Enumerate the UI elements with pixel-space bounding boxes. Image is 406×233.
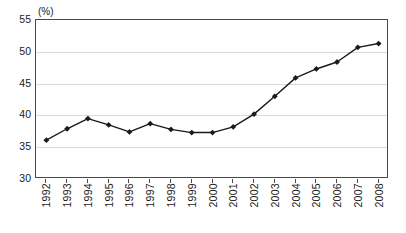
x-axis-tick-label: 2007 bbox=[352, 183, 364, 208]
data-point-marker: 1996: 37.4 bbox=[127, 129, 133, 135]
y-axis-tick-label: 50 bbox=[11, 46, 31, 56]
x-axis-tick-label: 2001 bbox=[227, 183, 239, 208]
x-axis-tick-label: 1996 bbox=[123, 183, 135, 208]
x-axis-tick-label: 1992 bbox=[40, 183, 52, 208]
data-point-marker: 2005: 47.3 bbox=[313, 66, 319, 72]
data-series-line: 1992: 36.11993: 37.91994: 39.51995: 38.5… bbox=[36, 20, 389, 179]
x-axis-tick-labels: 1992199319941995199619971998199920002001… bbox=[35, 179, 388, 233]
y-axis-tick-label: 45 bbox=[11, 78, 31, 88]
line-chart: (%) 303540455055 1992: 36.11993: 37.9199… bbox=[0, 0, 406, 233]
data-point-marker: 1997: 38.7 bbox=[147, 121, 153, 127]
plot-area: 1992: 36.11993: 37.91994: 39.51995: 38.5… bbox=[35, 19, 388, 178]
x-axis-tick-label: 1999 bbox=[186, 183, 198, 208]
x-axis-tick-label: 2000 bbox=[207, 183, 219, 208]
x-axis-tick-label: 2004 bbox=[290, 183, 302, 208]
x-axis-tick-label: 2008 bbox=[373, 183, 385, 208]
y-axis-unit-label: (%) bbox=[38, 6, 54, 17]
x-axis-tick-label: 2002 bbox=[248, 183, 260, 208]
data-point-marker: 1995: 38.5 bbox=[106, 122, 112, 128]
x-axis-tick-label: 1998 bbox=[165, 183, 177, 208]
y-axis-tick-label: 55 bbox=[11, 14, 31, 24]
x-axis-tick-label: 1993 bbox=[61, 183, 73, 208]
data-point-marker: 2000: 37.3 bbox=[210, 130, 216, 136]
data-point-marker: 1993: 37.9 bbox=[64, 126, 70, 132]
x-axis-tick-label: 1994 bbox=[82, 183, 94, 208]
y-axis-tick-labels: 303540455055 bbox=[0, 0, 31, 233]
data-point-marker: 1999: 37.3 bbox=[189, 130, 195, 136]
y-axis-tick-label: 40 bbox=[11, 109, 31, 119]
x-axis-tick-label: 2005 bbox=[310, 183, 322, 208]
x-axis-tick-label: 1995 bbox=[103, 183, 115, 208]
data-point-marker: 2008: 51.3 bbox=[376, 41, 382, 47]
data-point-marker: 1992: 36.1 bbox=[43, 137, 49, 143]
x-axis-tick-label: 2006 bbox=[331, 183, 343, 208]
data-point-marker: 1998: 37.8 bbox=[168, 126, 174, 132]
y-axis-tick-label: 35 bbox=[11, 141, 31, 151]
x-axis-tick-label: 2003 bbox=[269, 183, 281, 208]
x-axis-tick-label: 1997 bbox=[144, 183, 156, 208]
y-axis-tick-label: 30 bbox=[11, 173, 31, 183]
data-point-marker: 1994: 39.5 bbox=[85, 116, 91, 122]
series-line bbox=[46, 44, 378, 141]
